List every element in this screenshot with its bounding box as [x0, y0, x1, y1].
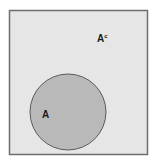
- set-a-label: A: [42, 109, 49, 120]
- venn-diagram: Ac A: [0, 0, 159, 166]
